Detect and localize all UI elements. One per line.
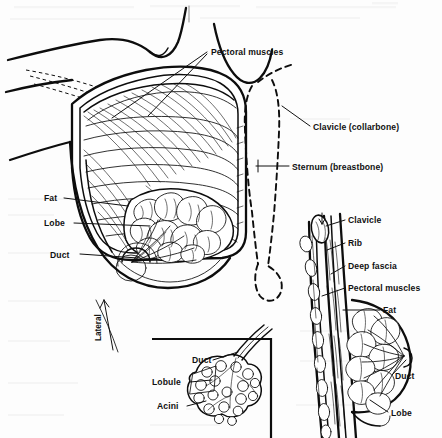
sternum-clavicle-dashed-outline bbox=[245, 64, 294, 301]
label-fat-main: Fat bbox=[44, 193, 57, 203]
label-pectoral-muscles-main: Pectoral muscles bbox=[211, 47, 283, 57]
inset-main-duct bbox=[234, 325, 272, 360]
label-duct-inset: Duct bbox=[192, 355, 212, 365]
leader-sternum-main bbox=[256, 160, 289, 172]
label-lobule-inset: Lobule bbox=[152, 377, 181, 387]
label-lobe-sagittal: Lobe bbox=[391, 408, 412, 418]
neck-shoulder-contour bbox=[8, 8, 186, 60]
inset-lobule-detail: Duct Lobule Acini bbox=[152, 325, 272, 438]
breast-glandular-tissue bbox=[116, 189, 233, 281]
label-fat-sagittal: Fat bbox=[383, 305, 396, 315]
label-sternum-main: Sternum (breastbone) bbox=[292, 162, 383, 172]
label-clavicle-main: Clavicle (collarbone) bbox=[313, 122, 399, 132]
label-lateral: Lateral bbox=[94, 314, 103, 341]
label-acini-inset: Acini bbox=[157, 401, 179, 411]
label-duct-main: Duct bbox=[50, 250, 70, 260]
label-pectoral-muscles-sagittal: Pectoral muscles bbox=[348, 283, 420, 293]
label-duct-sagittal: Duct bbox=[395, 371, 415, 381]
label-rib-sagittal: Rib bbox=[348, 238, 362, 248]
label-deep-fascia-sagittal: Deep fascia bbox=[348, 261, 397, 271]
breast-anatomy-figure: Lateral Pectoral muscles Clavicle (colla… bbox=[0, 0, 442, 438]
label-lobe-main: Lobe bbox=[44, 218, 65, 228]
label-clavicle-sagittal: Clavicle bbox=[348, 215, 381, 225]
acini-cluster bbox=[188, 355, 262, 426]
leader-pectoral-muscles-sagittal bbox=[322, 288, 345, 296]
leader-clavicle-main bbox=[282, 106, 310, 126]
main-anterolateral-view: Lateral Pectoral muscles Clavicle (colla… bbox=[6, 8, 399, 352]
